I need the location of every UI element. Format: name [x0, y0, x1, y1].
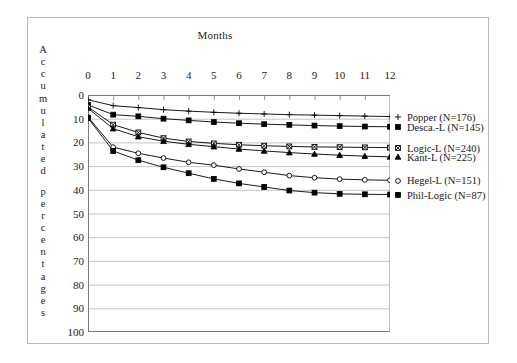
y-axis-tick-labels: 0102030405060708090100 [50, 88, 84, 338]
chart-figure: Months Accumulatedpercentages 0123456789… [0, 0, 517, 363]
legend-marker [393, 176, 405, 186]
data-marker [262, 122, 267, 127]
y-axis-label-letter: r [36, 210, 50, 222]
y-axis-label-letter: e [36, 234, 50, 246]
data-marker [362, 145, 367, 150]
data-marker [312, 175, 317, 180]
legend-marker [393, 152, 405, 162]
marker-circle [337, 177, 342, 182]
data-marker [388, 192, 390, 197]
y-axis-label-letter: u [36, 105, 50, 117]
marker-square [312, 123, 317, 128]
data-marker [395, 114, 401, 120]
data-marker [396, 193, 401, 198]
data-marker [395, 154, 401, 159]
y-axis-tick-label: 20 [73, 136, 84, 148]
data-marker [186, 160, 191, 165]
y-axis-tick-label: 10 [73, 113, 84, 125]
data-marker [110, 103, 116, 109]
x-axis-tick-label: 8 [287, 69, 293, 81]
data-marker [287, 173, 292, 178]
marker-square [262, 185, 267, 190]
marker-circle [388, 178, 390, 183]
data-marker [337, 124, 342, 129]
y-axis-label-letter: c [36, 56, 50, 68]
y-axis-label-letter: A [36, 44, 50, 56]
data-marker [262, 185, 267, 190]
x-axis-tick-label: 12 [385, 69, 396, 81]
y-axis-label-letter: m [36, 93, 50, 105]
marker-circle [312, 175, 317, 180]
y-axis-tick-label: 70 [73, 255, 84, 267]
plot-area [88, 95, 390, 332]
data-marker [312, 190, 317, 195]
marker-circle [362, 177, 367, 182]
data-marker [211, 109, 217, 115]
marker-square [362, 192, 367, 197]
marker-square [136, 158, 141, 163]
marker-triangle [395, 154, 401, 159]
legend-item[interactable]: Desca.-L (N=145) [393, 121, 484, 133]
data-marker [161, 165, 166, 170]
y-axis-label-letter: d [36, 165, 50, 177]
data-marker [388, 124, 390, 129]
marker-square [396, 125, 401, 130]
data-marker [88, 97, 91, 103]
y-axis-label-letter: c [36, 222, 50, 234]
legend-marker [393, 122, 405, 132]
marker-square [161, 165, 166, 170]
y-axis-label-letter: l [36, 117, 50, 129]
data-marker [362, 124, 367, 129]
legend-item-label: Desca.-L (N=145) [407, 122, 484, 133]
marker-square [337, 191, 342, 196]
data-marker [237, 181, 242, 186]
data-marker [396, 178, 401, 183]
marker-circle [211, 163, 216, 168]
plot-svg [88, 95, 390, 332]
marker-square [287, 188, 292, 193]
data-marker [237, 121, 242, 126]
marker-square [362, 124, 367, 129]
data-marker [337, 145, 342, 150]
data-marker [186, 108, 192, 114]
data-series [88, 116, 390, 197]
x-axis-tick-label: 6 [236, 69, 242, 81]
marker-circle [237, 167, 242, 172]
legend-item[interactable]: Hegel-L (N=151) [393, 174, 480, 186]
marker-square [337, 124, 342, 129]
y-axis-label-letter: p [36, 186, 50, 198]
marker-square [388, 192, 390, 197]
x-axis-tick-label: 0 [85, 69, 91, 81]
marker-square [211, 120, 216, 125]
data-marker [337, 113, 343, 119]
marker-square [237, 121, 242, 126]
x-axis-tick-label: 7 [261, 69, 267, 81]
y-axis-tick-label: 0 [79, 89, 85, 101]
marker-square [186, 171, 191, 176]
data-marker [287, 144, 292, 149]
x-axis-tick-label: 3 [161, 69, 167, 81]
legend-item-label: Phil-Logic (N=87) [407, 190, 486, 201]
y-axis-label-letter: c [36, 68, 50, 80]
data-marker [211, 120, 216, 125]
data-marker [161, 116, 166, 121]
data-marker [161, 107, 167, 113]
data-marker [287, 122, 292, 127]
y-axis-tick-label: 60 [73, 231, 84, 243]
data-marker [362, 113, 368, 119]
data-marker [312, 145, 317, 150]
legend-item[interactable]: Kant-L (N=225) [393, 151, 476, 163]
y-axis-label-letter: t [36, 258, 50, 270]
marker-square [396, 193, 401, 198]
data-marker [388, 178, 390, 183]
y-axis-tick-label: 50 [73, 208, 84, 220]
data-marker [387, 114, 390, 120]
legend-item[interactable]: Phil-Logic (N=87) [393, 188, 486, 200]
data-marker [135, 105, 141, 111]
y-axis-label-letter: g [36, 283, 50, 295]
x-axis-tick-label: 4 [186, 69, 192, 81]
y-axis-label-letter: e [36, 198, 50, 210]
data-marker [211, 163, 216, 168]
data-marker [236, 110, 242, 116]
marker-circle [396, 178, 401, 183]
